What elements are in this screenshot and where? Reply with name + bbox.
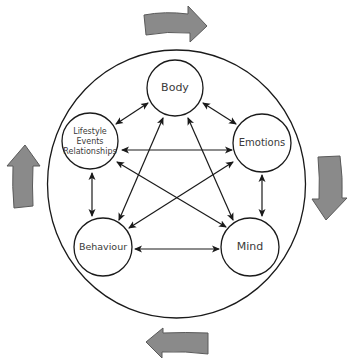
link-lifestyle-mind — [117, 162, 226, 227]
node-lifestyle-label-line-3: Relationships — [63, 147, 116, 156]
link-body-mind — [188, 118, 233, 220]
node-lifestyle-label-line-2: Events — [76, 137, 103, 146]
node-behaviour-label: Behaviour — [79, 241, 127, 252]
node-mind: Mind — [221, 218, 279, 276]
bottom-left-flow-arrow-icon — [146, 328, 208, 358]
node-behaviour: Behaviour — [74, 218, 132, 276]
right-down-flow-arrow-icon — [312, 156, 347, 220]
left-up-flow-arrow-icon — [7, 145, 40, 208]
node-emotions-label: Emotions — [239, 137, 286, 148]
node-body: Body — [147, 60, 203, 116]
five-areas-diagram: Body Emotions Lifestyle Events Relations… — [0, 0, 350, 362]
node-mind-label: Mind — [237, 240, 264, 253]
link-emotions-behaviour — [129, 162, 233, 228]
node-emotions: Emotions — [233, 114, 291, 172]
link-body-emotions — [203, 103, 236, 124]
node-lifestyle-label-line-1: Lifestyle — [73, 127, 107, 136]
link-body-behaviour — [119, 118, 163, 220]
cycle-arrows — [7, 6, 347, 358]
node-lifestyle-events-relationships: Lifestyle Events Relationships — [62, 113, 118, 169]
node-body-label: Body — [161, 81, 189, 94]
top-right-flow-arrow-icon — [144, 6, 207, 42]
link-body-lifestyle — [116, 103, 148, 124]
